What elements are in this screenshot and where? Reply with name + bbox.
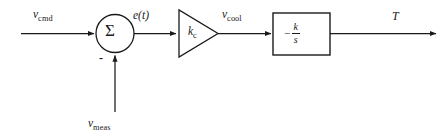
label-meas-subscript: meas xyxy=(93,123,110,132)
label-gain-kc: kc xyxy=(188,26,197,41)
plant-fraction: k s xyxy=(292,22,300,45)
plant-sign: − xyxy=(284,28,290,39)
summation-symbol: Σ xyxy=(105,22,115,39)
label-output-temperature: T xyxy=(392,10,399,22)
label-error-signal: e(t) xyxy=(133,10,149,22)
plant-transfer-function: − k s xyxy=(284,22,300,45)
plant-numerator: k xyxy=(292,22,298,33)
label-controller-output: vcool xyxy=(222,9,242,24)
plant-denominator: s xyxy=(293,35,299,46)
gain-subscript: c xyxy=(193,31,197,40)
label-command-input: vcmd xyxy=(33,9,53,24)
feedback-sign-minus: - xyxy=(99,52,103,64)
summing-junction-circle xyxy=(96,15,134,53)
plant-rectangle xyxy=(273,13,330,55)
gain-triangle xyxy=(179,10,218,57)
label-command-subscript: cmd xyxy=(38,14,53,23)
label-measured-feedback: vmeas xyxy=(88,118,111,133)
block-diagram-canvas: vcmd Σ - e(t) kc vcool − k s T vmeas xyxy=(0,0,446,137)
label-cool-subscript: cool xyxy=(227,14,242,23)
